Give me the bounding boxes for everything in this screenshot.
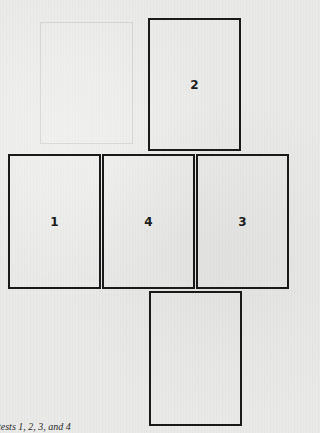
panel-1: 1	[8, 154, 101, 289]
panel-4: 4	[102, 154, 195, 289]
panel-label-4: 4	[144, 215, 152, 229]
panel-bottom-blank	[149, 291, 242, 426]
panel-2: 2	[148, 18, 241, 151]
panel-label-3: 3	[238, 215, 246, 229]
figure-caption: tests 1, 2, 3, and 4	[0, 421, 71, 432]
panel-3: 3	[196, 154, 289, 289]
faint-bleed-through-rectangle	[40, 22, 133, 144]
panel-label-2: 2	[190, 78, 198, 92]
panel-label-1: 1	[50, 215, 58, 229]
